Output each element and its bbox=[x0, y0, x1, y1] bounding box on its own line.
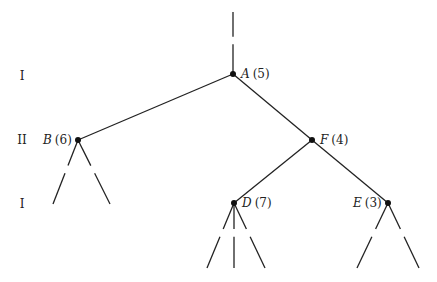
stub-segment bbox=[250, 237, 265, 268]
node-B-dot bbox=[75, 137, 81, 143]
edge-A-B bbox=[78, 74, 233, 140]
node-A-dot bbox=[230, 71, 236, 77]
player-level-label: II bbox=[17, 133, 26, 147]
stub-segment bbox=[388, 203, 400, 229]
stub-segment bbox=[78, 140, 91, 166]
stub-segment bbox=[207, 237, 220, 268]
node-E-dot bbox=[385, 200, 391, 206]
stub-segment bbox=[357, 237, 372, 268]
node-label-E: E(3) bbox=[353, 196, 382, 210]
game-tree-diagram: IIIIA(5)B(6)F(4)D(7)E(3) bbox=[0, 0, 437, 282]
node-label-B: B(6) bbox=[43, 133, 72, 147]
node-label-A: A(5) bbox=[241, 67, 270, 81]
node-D-dot bbox=[231, 200, 237, 206]
edge-F-D bbox=[234, 140, 312, 203]
player-level-label: I bbox=[20, 69, 25, 83]
node-label-F: F(4) bbox=[320, 133, 348, 147]
stub-segment bbox=[223, 203, 234, 229]
stub-segment bbox=[53, 173, 65, 204]
edge-F-E bbox=[312, 140, 388, 203]
player-level-label: I bbox=[20, 197, 25, 211]
stub-segment bbox=[95, 173, 110, 204]
node-F-dot bbox=[309, 137, 315, 143]
stub-segment bbox=[404, 237, 419, 268]
node-label-D: D(7) bbox=[242, 196, 272, 210]
edge-A-F bbox=[233, 74, 312, 140]
